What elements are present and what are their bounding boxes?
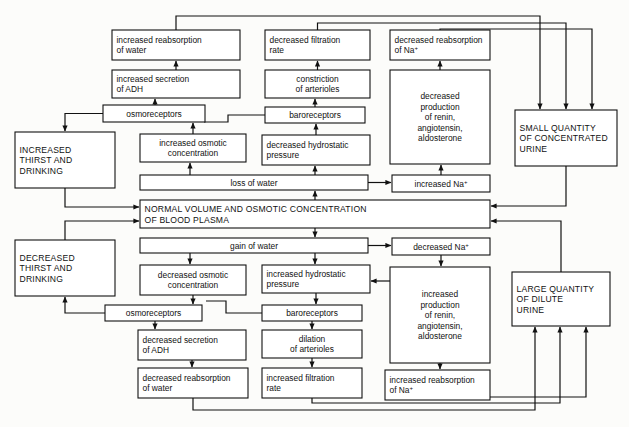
node-constriction-arterioles[interactable]: constrictionof arterioles: [265, 70, 370, 98]
node-label: baroreceptors: [286, 308, 338, 318]
node-label: INCREASED: [20, 145, 72, 155]
node-label: of arterioles: [290, 344, 334, 354]
node-label: decreased Na+: [413, 242, 469, 252]
node-decreased-production-renin[interactable]: decreasedproductionof renin,angiotensin,…: [390, 70, 490, 164]
node-label: OF DILUTE: [517, 294, 564, 304]
node-increased-reabsorption-water[interactable]: increased reabsorptionof water: [112, 30, 240, 60]
node-label: OF BLOOD PLASMA: [145, 215, 230, 225]
node-osmoreceptors-top[interactable]: osmoreceptors: [103, 105, 205, 122]
node-label: dilation: [299, 334, 326, 344]
connector: [65, 188, 139, 207]
node-small-quantity-urine[interactable]: SMALL QUANTITYOF CONCENTRATEDURINE: [515, 110, 617, 166]
node-label: of renin,: [425, 112, 455, 122]
node-label: decreased filtration: [270, 35, 341, 45]
node-label: rate: [267, 383, 282, 393]
connector: [204, 115, 265, 122]
node-decreased-reabsorption-water[interactable]: decreased reabsorptionof water: [138, 368, 248, 398]
node-label: pressure: [267, 279, 300, 289]
node-label: increased osmotic: [159, 138, 227, 148]
node-label: loss of water: [230, 178, 277, 188]
node-dilation-arterioles[interactable]: dilationof arterioles: [262, 330, 362, 358]
node-label: URINE: [520, 144, 548, 154]
node-label: aldosterone: [418, 133, 462, 143]
node-label: increased filtration: [267, 373, 335, 383]
node-label: SMALL QUANTITY: [520, 123, 597, 133]
node-decreased-filtration-rate[interactable]: decreased filtrationrate: [265, 30, 370, 60]
node-label: increased hydrostatic: [267, 269, 346, 279]
connector: [65, 221, 139, 240]
node-label: angiotensin,: [417, 321, 462, 331]
node-decreased-reabsorption-na[interactable]: decreased reabsorptionof Na+: [390, 30, 490, 60]
node-loss-of-water[interactable]: loss of water: [140, 175, 368, 190]
connector: [206, 301, 262, 313]
node-increased-hydrostatic-pressure[interactable]: increased hydrostaticpressure: [262, 265, 370, 293]
node-label: of water: [117, 45, 147, 55]
flowchart-page: increased reabsorptionof waterdecreased …: [0, 0, 629, 427]
node-decreased-hydrostatic-pressure[interactable]: decreased hydrostaticpressure: [262, 135, 370, 165]
node-increased-filtration-rate[interactable]: increased filtrationrate: [262, 368, 362, 398]
node-label: THIRST AND: [20, 155, 73, 165]
node-decreased-secretion-adh[interactable]: decreased secretionof ADH: [138, 330, 246, 360]
node-increased-production-renin[interactable]: increasedproductionof renin,angiotensin,…: [390, 267, 490, 363]
connector: [65, 297, 105, 313]
node-label: production: [420, 300, 459, 310]
node-label: increased secretion: [117, 74, 190, 84]
node-label: increased reabsorption: [390, 375, 476, 385]
node-osmoreceptors-bottom[interactable]: osmoreceptors: [105, 305, 202, 321]
node-label: of water: [143, 383, 173, 393]
node-decreased-thirst-drinking[interactable]: DECREASEDTHIRST ANDDRINKING: [15, 240, 115, 296]
node-decreased-na[interactable]: decreased Na+: [392, 238, 490, 255]
node-increased-osmotic-concentration[interactable]: increased osmoticconcentration: [140, 134, 246, 162]
node-label: of renin,: [425, 310, 455, 320]
node-label: DRINKING: [20, 166, 64, 176]
node-label: OF CONCENTRATED: [520, 133, 608, 143]
box-layer: increased reabsorptionof waterdecreased …: [15, 30, 617, 400]
node-label: decreased reabsorption: [395, 35, 483, 45]
node-label: decreased hydrostatic: [267, 140, 349, 150]
node-label: URINE: [517, 305, 545, 315]
connector: [65, 114, 103, 132]
node-increased-reabsorption-na[interactable]: increased reabsorptionof Na+: [385, 370, 490, 400]
node-label: osmoreceptors: [126, 308, 181, 318]
node-label: of ADH: [143, 345, 170, 355]
node-label: DRINKING: [20, 274, 64, 284]
node-label: gain of water: [230, 241, 278, 251]
node-label: baroreceptors: [289, 110, 341, 120]
node-label: increased Na+: [415, 179, 468, 189]
node-label: NORMAL VOLUME AND OSMOTIC CONCENTRATION: [145, 204, 367, 214]
node-label: angiotensin,: [417, 123, 462, 133]
connector: [491, 166, 566, 206]
connector: [491, 221, 561, 272]
node-label: increased: [422, 289, 459, 299]
node-label: of ADH: [117, 84, 144, 94]
node-label: DECREASED: [20, 253, 75, 263]
node-increased-thirst-drinking[interactable]: INCREASEDTHIRST ANDDRINKING: [15, 132, 115, 188]
node-label: LARGE QUANTITY: [517, 284, 595, 294]
node-increased-secretion-adh[interactable]: increased secretionof ADH: [112, 70, 240, 98]
node-baroreceptors-bottom[interactable]: baroreceptors: [262, 305, 362, 321]
flowchart-svg: increased reabsorptionof waterdecreased …: [0, 0, 629, 427]
node-label: decreased osmotic: [158, 270, 228, 280]
node-label: decreased secretion: [143, 335, 219, 345]
node-gain-of-water[interactable]: gain of water: [140, 238, 368, 253]
node-label: increased reabsorption: [117, 35, 203, 45]
node-increased-na[interactable]: increased Na+: [392, 175, 490, 192]
node-label: constriction: [296, 74, 339, 84]
node-large-quantity-urine[interactable]: LARGE QUANTITYOF DILUTEURINE: [512, 272, 610, 326]
node-baroreceptors-top[interactable]: baroreceptors: [265, 107, 365, 123]
node-label: production: [420, 102, 459, 112]
node-label: concentration: [168, 280, 219, 290]
node-label: of arterioles: [296, 84, 340, 94]
node-label: decreased: [420, 91, 459, 101]
node-decreased-osmotic-concentration[interactable]: decreased osmoticconcentration: [140, 265, 246, 295]
node-label: aldosterone: [418, 331, 462, 341]
node-normal-volume-plasma[interactable]: NORMAL VOLUME AND OSMOTIC CONCENTRATIONO…: [140, 200, 490, 228]
node-label: osmoreceptors: [126, 109, 181, 119]
node-label: pressure: [267, 150, 300, 160]
node-label: concentration: [168, 148, 219, 158]
node-label: THIRST AND: [20, 263, 73, 273]
node-label: rate: [270, 45, 285, 55]
node-label: decreased reabsorption: [143, 373, 231, 383]
